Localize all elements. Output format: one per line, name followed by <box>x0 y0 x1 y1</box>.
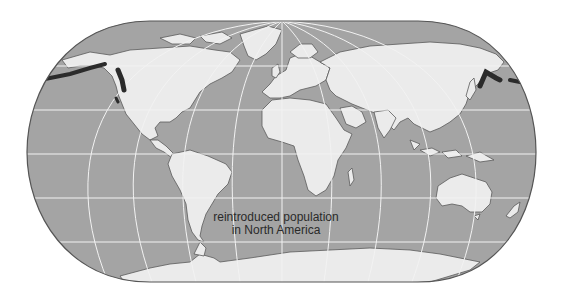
annotation-line-2: in North America <box>196 224 356 237</box>
world-map: reintroduced population in North America <box>0 0 568 295</box>
annotation-label: reintroduced population in North America <box>196 211 356 237</box>
